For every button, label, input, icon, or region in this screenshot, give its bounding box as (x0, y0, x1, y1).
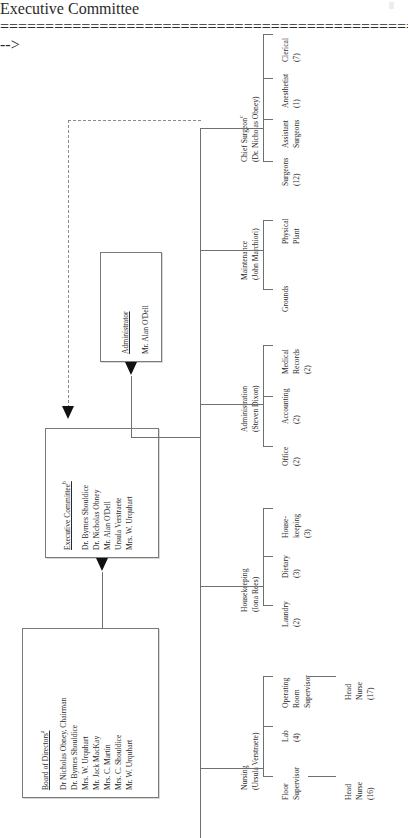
child-label-line1: House- (280, 514, 291, 538)
child-count: (2) (291, 601, 302, 627)
child-label-line2: keeping (291, 514, 302, 538)
chief-surgeon-title: Chief Surgeonc (239, 96, 250, 162)
housekeeping-title-block: Housekeeping (Iona Rees) (239, 569, 261, 612)
child-label-line1: Grounds (280, 286, 291, 312)
board-of-directors-content: Board of Directorsa Dr Nicholas Obney, C… (40, 630, 135, 790)
arrowhead-executive-to-administrator (125, 362, 137, 375)
chief-surgeon-child-assistant-surgeons: Assistant Surgeons (280, 120, 302, 148)
administration-child-link-accounting (263, 396, 273, 397)
maintenance-child-physical-plant: Physical Plant (280, 218, 302, 244)
head-nurse-16: Head Nurse (16) (343, 782, 376, 800)
grandchild-label-line2: Nurse (354, 682, 365, 700)
chief-surgeon-child-surgeons: Surgeons (12) (280, 158, 302, 186)
chief-surgeon-child-link-clerical (263, 34, 273, 35)
nursing-child-link-lab (263, 726, 273, 727)
child-count: (4) (291, 730, 302, 742)
nursing-rail-stub (232, 768, 263, 769)
spine-branch-housekeeping (200, 586, 232, 587)
nursing-child-operating-room-supervisor: Operating Room Supervisor (280, 675, 313, 708)
housekeeping-rail-stub (232, 586, 263, 587)
child-label-line1: Medical (280, 349, 291, 374)
grandchild-label-line2: Nurse (354, 782, 365, 800)
administration-child-link-office (263, 446, 273, 447)
executive-committee-member: Mr. Alan O'Dell (102, 428, 113, 550)
maintenance-title-block: Maintenance (John Marchiori) (239, 228, 261, 280)
connector-administrator-spine-stub (131, 437, 201, 438)
child-count: (1) (291, 74, 302, 108)
head-nurse-17: Head Nurse (17) (343, 682, 376, 700)
administration-title-block: Administration (Steven Dixon) (239, 385, 261, 432)
maintenance-child-link-physical-plant (263, 220, 273, 221)
maintenance-manager: (John Marchiori) (250, 228, 261, 280)
maintenance-title: Maintenance (239, 228, 250, 280)
dashed-connector-vertical (68, 120, 69, 408)
spacer (51, 630, 58, 790)
child-count: (2) (291, 389, 302, 424)
child-label-line2: Surgeons (291, 120, 302, 148)
main-spine (200, 128, 201, 838)
link-or-supervisor-to-head-nurse-17 (308, 676, 336, 677)
chief-surgeon-child-anesthetist: Anesthetist (1) (280, 74, 302, 108)
chief-surgeon-child-clerical: Clerical (7) (280, 38, 302, 62)
board-member: Mrs. W. Urquhart (80, 630, 91, 790)
nursing-child-lab: Lab (4) (280, 730, 302, 742)
housekeeping-child-housekeeping: House- keeping (3) (280, 514, 313, 538)
child-label-line1: Accounting (280, 389, 291, 424)
chief-surgeon-child-link-surgeons (263, 161, 273, 162)
child-label-line1: Clerical (280, 38, 291, 62)
grandchild-label-line1: Head (343, 682, 354, 700)
child-count: (3) (302, 514, 313, 538)
administration-child-link-medical-records (263, 345, 273, 346)
housekeeping-manager: (Iona Rees) (250, 569, 261, 612)
child-label-line1: Office (280, 447, 291, 466)
child-label-line1: Operating (280, 675, 291, 708)
chief-surgeon-children-rail (263, 34, 264, 162)
footnote-marker-a: a (39, 731, 45, 733)
maintenance-child-link-grounds (263, 289, 273, 290)
child-label-line1: Surgeons (280, 158, 291, 186)
administration-title: Administration (239, 385, 250, 432)
child-label-line1: Physical (280, 218, 291, 244)
housekeeping-child-laundry: Laundry (2) (280, 601, 302, 627)
child-label-line1: Floor (280, 767, 291, 800)
nursing-title-block: Nursing (Ursula Verstraete) (239, 733, 261, 790)
link-floor-supervisor-to-head-nurse-16 (308, 776, 336, 777)
child-label-line1: Assistant (280, 120, 291, 148)
child-label-line3: Supervisor (302, 675, 313, 708)
spacer (131, 250, 140, 354)
nursing-child-link-or-supervisor (263, 676, 273, 677)
child-count: (3) (291, 555, 302, 578)
board-member: Mrs. C. Martin (102, 630, 113, 790)
housekeeping-title: Housekeeping (239, 569, 250, 612)
executive-committee-member: Ursula Verstraete (113, 428, 124, 550)
chief-surgeon-child-link-anesthetist (263, 78, 273, 79)
spine-branch-maintenance (200, 250, 232, 251)
footnote-marker-b: b (61, 481, 67, 484)
administrator-name: Mr. Alan O'Dell (140, 250, 151, 354)
board-member: Mr. Jack MacKay (91, 630, 102, 790)
child-count: (2) (302, 349, 313, 374)
child-label-line1: Anesthetist (280, 74, 291, 108)
nursing-child-link-floor-supervisor (263, 776, 273, 777)
arrowhead-board-to-executive (96, 558, 108, 571)
connector-executive-to-administrator (131, 376, 132, 428)
executive-committee-header: Executive Committeeb (62, 428, 73, 550)
grandchild-label-line1: Head (343, 782, 354, 800)
maintenance-children-rail (263, 220, 264, 290)
executive-committee-content: Executive Committeeb Dr. Byrnes Shouldic… (62, 428, 135, 550)
administration-child-office: Office (2) (280, 447, 302, 466)
administration-child-medical-records: Medical Records (2) (280, 349, 313, 374)
connector-board-to-executive (102, 572, 103, 628)
chief-surgeon-manager: (Dr. Nicholas Obney) (250, 96, 261, 162)
housekeeping-child-dietary: Dietary (3) (280, 555, 302, 578)
chief-surgeon-title-block: Chief Surgeonc (Dr. Nicholas Obney) (239, 96, 261, 162)
housekeeping-child-link-laundry (263, 605, 273, 606)
board-member: Mrs. C. Shouldice (113, 630, 124, 790)
housekeeping-children-rail (263, 508, 264, 606)
child-label-line2: Room (291, 675, 302, 708)
nursing-manager: (Ursula Verstraete) (250, 733, 261, 790)
administration-child-accounting: Accounting (2) (280, 389, 302, 424)
child-label-line1: Lab (280, 730, 291, 742)
child-count: (7) (291, 38, 302, 62)
board-member: Dr. Byrnes Shouldice (69, 630, 80, 790)
